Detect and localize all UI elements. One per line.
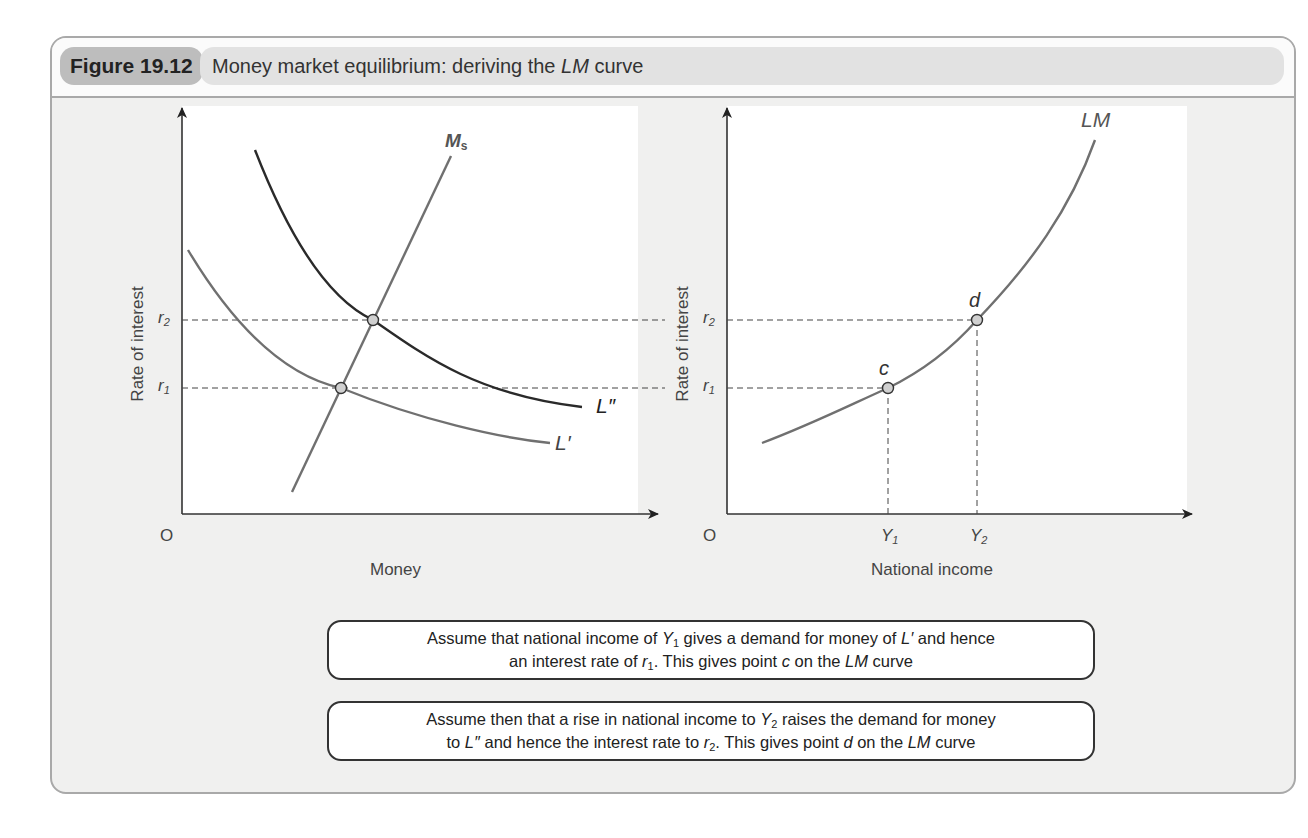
left-tick-r2: r2: [158, 308, 170, 328]
lm-label: LM: [1081, 108, 1110, 132]
tick-y2: Y2: [970, 526, 987, 546]
right-ylabel: Rate of interest: [673, 279, 693, 409]
left-ylabel: Rate of interest: [128, 279, 148, 409]
ms-label: Ms: [445, 130, 468, 152]
right-xlabel: National income: [871, 560, 993, 580]
left-tick-r1: r1: [158, 376, 170, 396]
point-d-label: d: [969, 289, 980, 312]
point-d: [972, 315, 983, 326]
money-market-chart: [182, 106, 665, 514]
l-double-prime-label: L″: [596, 394, 615, 418]
note-point-d: Assume then that a rise in national inco…: [327, 701, 1095, 761]
point-c-label: c: [879, 357, 889, 380]
note-point-c: Assume that national income of Y1 gives …: [327, 620, 1095, 680]
tick-y1: Y1: [881, 526, 898, 546]
l-prime-label: L′: [555, 431, 571, 455]
right-origin: O: [703, 526, 716, 546]
equilibrium-point-r1: [336, 383, 347, 394]
right-tick-r1: r1: [703, 376, 715, 396]
right-tick-r2: r2: [703, 308, 715, 328]
right-plot-area: [727, 106, 1187, 514]
lm-curve-chart: [727, 106, 1192, 514]
left-origin: O: [160, 526, 173, 546]
left-xlabel: Money: [370, 560, 421, 580]
point-c: [883, 383, 894, 394]
equilibrium-point-r2: [368, 315, 379, 326]
